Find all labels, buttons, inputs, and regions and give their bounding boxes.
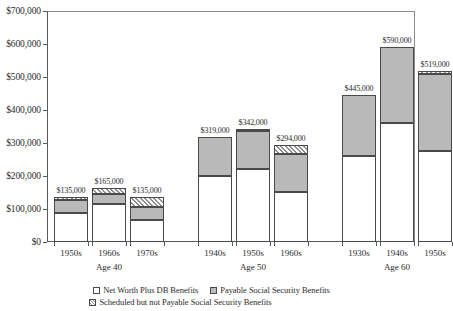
bar-segment-payable (236, 131, 270, 168)
bar-total-label: $294,000 (277, 134, 306, 143)
x-axis-tick-mark (274, 242, 275, 246)
x-axis: 1950s1960s1970s1940s1950s1960s1930s1940s… (47, 242, 415, 282)
bar-segment-scheduled (54, 197, 88, 199)
x-axis-tick-mark (126, 242, 127, 246)
bar-segment-payable (130, 207, 164, 220)
legend-row-1: Net Worth Plus DB Benefits Payable Socia… (0, 284, 423, 296)
bar-segment-payable (92, 194, 126, 205)
x-axis-tick-mark (380, 242, 381, 246)
bar[interactable]: $319,000 (198, 137, 232, 242)
bar-segment-payable (418, 74, 452, 150)
legend-swatch-scheduled-icon (89, 299, 96, 306)
legend-swatch-net-worth-icon (93, 287, 100, 294)
bar-segment-payable (274, 154, 308, 192)
bar[interactable]: $445,000 (342, 95, 376, 242)
legend-swatch-payable-icon (210, 287, 217, 294)
x-axis-tick-mark (308, 242, 309, 246)
x-axis-tick-mark (198, 242, 199, 246)
legend-label-net-worth: Net Worth Plus DB Benefits (103, 285, 198, 296)
bar-segment-net-worth (342, 156, 376, 242)
bar[interactable]: $165,000 (92, 188, 126, 242)
bar-segment-scheduled (236, 129, 270, 131)
bar-segment-net-worth (274, 192, 308, 242)
x-axis-group-label: Age 40 (96, 262, 122, 272)
bar[interactable]: $342,000 (236, 129, 270, 242)
x-axis-category-label: 1950s (424, 248, 446, 258)
x-axis-tick-mark (164, 242, 165, 246)
bar[interactable]: $519,000 (418, 71, 452, 242)
bar-segment-scheduled (274, 145, 308, 154)
x-axis-category-label: 1950s (242, 248, 264, 258)
x-axis-tick-mark (236, 242, 237, 246)
bar-segment-payable (198, 137, 232, 176)
x-axis-category-label: 1940s (204, 248, 226, 258)
x-axis-tick-mark (376, 242, 377, 246)
bar-total-label: $135,000 (133, 186, 162, 195)
bar-segment-payable (54, 200, 88, 213)
bar[interactable]: $135,000 (130, 197, 164, 242)
bar-segment-payable (380, 47, 414, 123)
x-axis-category-label: 1960s (98, 248, 120, 258)
x-axis-tick-mark (414, 242, 415, 246)
x-axis-tick-mark (54, 242, 55, 246)
bar-segment-payable (342, 95, 376, 155)
bar-total-label: $519,000 (421, 60, 450, 69)
x-axis-tick-mark (88, 242, 89, 246)
x-axis-category-label: 1960s (280, 248, 302, 258)
bar-segment-net-worth (198, 176, 232, 242)
bar-segment-scheduled (418, 71, 452, 75)
bar[interactable]: $590,000 (380, 47, 414, 242)
x-axis-category-label: 1970s (136, 248, 158, 258)
chart-legend: Net Worth Plus DB Benefits Payable Socia… (0, 284, 423, 308)
y-axis-tick-label: $700,000 (6, 6, 41, 16)
bar-segment-net-worth (380, 123, 414, 242)
y-axis-tick-label: $600,000 (6, 39, 41, 49)
bar-total-label: $445,000 (345, 84, 374, 93)
bar-segment-scheduled (92, 188, 126, 194)
bar-total-label: $165,000 (95, 177, 124, 186)
legend-row-2: Scheduled but not Payable Social Securit… (0, 296, 423, 308)
x-axis-group-label: Age 60 (384, 262, 410, 272)
bar-total-label: $342,000 (239, 118, 268, 127)
x-axis-group-label: Age 50 (240, 262, 266, 272)
x-axis-tick-mark (418, 242, 419, 246)
y-axis-tick-label: $200,000 (6, 171, 41, 181)
x-axis-category-label: 1940s (386, 248, 408, 258)
bar-total-label: $590,000 (383, 36, 412, 45)
x-axis-category-label: 1930s (348, 248, 370, 258)
bar-segment-scheduled (130, 197, 164, 206)
y-axis: $0$100,000$200,000$300,000$400,000$500,0… (0, 0, 47, 242)
legend-label-payable: Payable Social Security Benefits (220, 285, 330, 296)
bar-segment-net-worth (54, 213, 88, 242)
x-axis-tick-mark (92, 242, 93, 246)
x-axis-tick-mark (130, 242, 131, 246)
bar[interactable]: $135,000 (54, 197, 88, 242)
x-axis-tick-mark (270, 242, 271, 246)
y-axis-tick-label: $100,000 (6, 204, 41, 214)
x-axis-category-label: 1950s (60, 248, 82, 258)
legend-item-payable: Payable Social Security Benefits (210, 285, 330, 296)
bars-layer: $135,000$165,000$135,000$319,000$342,000… (47, 11, 415, 242)
legend-item-scheduled: Scheduled but not Payable Social Securit… (89, 297, 271, 308)
bar-segment-net-worth (130, 220, 164, 242)
x-axis-tick-mark (232, 242, 233, 246)
legend-label-scheduled: Scheduled but not Payable Social Securit… (99, 297, 271, 308)
y-axis-tick-label: $400,000 (6, 105, 41, 115)
bar-total-label: $135,000 (57, 186, 86, 195)
y-axis-tick-label: $300,000 (6, 138, 41, 148)
legend-item-net-worth: Net Worth Plus DB Benefits (93, 285, 198, 296)
bar-total-label: $319,000 (201, 126, 230, 135)
x-axis-tick-mark (342, 242, 343, 246)
bar-segment-net-worth (418, 151, 452, 242)
bar-segment-net-worth (92, 204, 126, 242)
y-axis-tick-label: $0 (32, 237, 41, 247)
bar[interactable]: $294,000 (274, 145, 308, 242)
y-axis-tick-label: $500,000 (6, 72, 41, 82)
bar-segment-net-worth (236, 169, 270, 242)
